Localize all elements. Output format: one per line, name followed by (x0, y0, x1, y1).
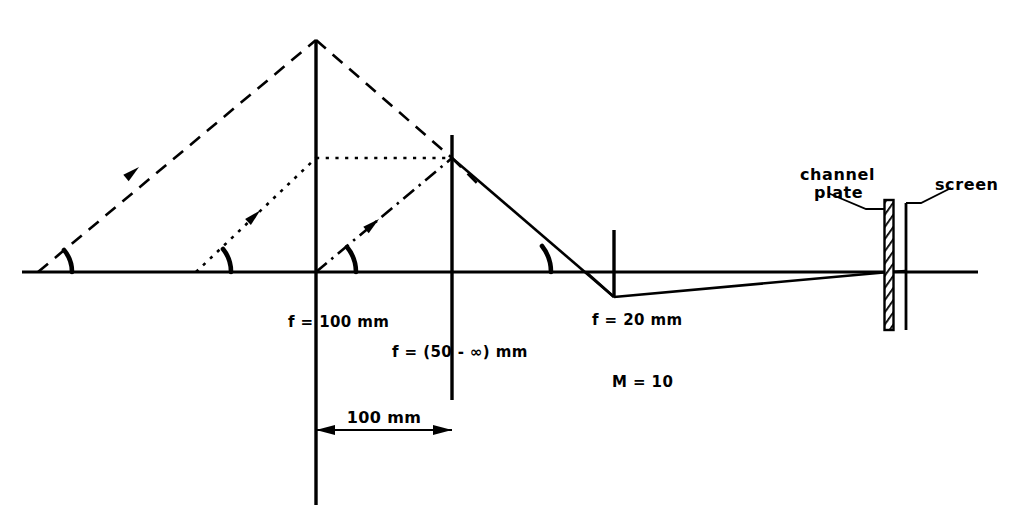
lens-1-focal-label: f = 100 mm (288, 313, 389, 331)
dimension-label: 100 mm (347, 408, 422, 427)
angle-marker-1 (64, 250, 72, 272)
screen-label: screen (935, 175, 999, 194)
ray-dash-dot (316, 158, 452, 272)
angle-marker-4 (542, 246, 551, 272)
channel-plate-label-line2: plate (814, 183, 863, 202)
angle-marker-2 (223, 249, 231, 272)
ray-dashed-arrow (123, 164, 141, 181)
channel-plate-label-line1: channel (800, 165, 875, 184)
angle-marker-3 (347, 247, 356, 272)
magnification-label: M = 10 (612, 373, 673, 391)
ray-dashed (38, 40, 452, 272)
figure-canvas: f = 100 mm f = (50 - ∞) mm f = 20 mm M =… (0, 0, 1011, 529)
lens-2-focal-label: f = (50 - ∞) mm (392, 343, 528, 361)
lens-3-focal-label: f = 20 mm (592, 311, 683, 329)
optical-ray-diagram: f = 100 mm f = (50 - ∞) mm f = 20 mm M =… (0, 0, 1011, 529)
ray-dotted (196, 158, 452, 272)
ray-solid-axis-cross (586, 272, 614, 297)
channel-plate (885, 200, 894, 330)
